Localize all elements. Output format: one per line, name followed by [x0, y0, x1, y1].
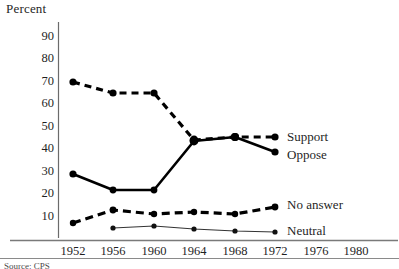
point-support-1956: [109, 89, 116, 96]
series-label-no-answer: No answer: [287, 198, 343, 212]
series-oppose-line: [73, 137, 275, 190]
series-no-answer: [70, 204, 279, 227]
point-oppose-1964: [190, 137, 199, 146]
series-label-oppose: Oppose: [287, 148, 327, 162]
chart-figure: Percent 90 80 70 60 50 40 30 20 10: [0, 0, 399, 269]
point-neutral-1968: [232, 228, 237, 233]
point-oppose-1960: [151, 187, 158, 194]
plot-area: [0, 0, 399, 269]
point-no-answer-1960: [151, 211, 157, 217]
point-oppose-1952: [69, 170, 76, 177]
x-tick-1980: 1980: [335, 245, 377, 258]
x-tick-1956: 1956: [92, 245, 134, 258]
x-tick-1976: 1976: [295, 245, 337, 258]
point-support-1960: [150, 89, 157, 96]
series-neutral: [110, 223, 277, 234]
x-tick-1968: 1968: [214, 245, 256, 258]
point-no-answer-1964: [191, 209, 197, 215]
point-oppose-1956: [110, 187, 117, 194]
point-no-answer-1956: [110, 207, 117, 214]
point-neutral-1964: [191, 226, 196, 231]
series-label-neutral: Neutral: [287, 224, 326, 238]
point-support-1952: [69, 78, 76, 85]
point-neutral-1972: [272, 229, 277, 234]
series-support-line: [73, 82, 275, 140]
source-note: Source: CPS: [4, 261, 50, 269]
point-neutral-1956: [110, 225, 115, 230]
x-tick-1972: 1972: [254, 245, 296, 258]
x-tick-1952: 1952: [52, 245, 94, 258]
series-oppose: [69, 133, 278, 193]
point-no-answer-1972: [272, 204, 279, 211]
series-label-support: Support: [287, 130, 328, 144]
point-oppose-1972: [271, 148, 278, 155]
x-tick-1964: 1964: [173, 245, 215, 258]
point-no-answer-1952: [70, 220, 76, 226]
point-support-1972: [271, 133, 278, 140]
point-neutral-1960: [151, 223, 156, 228]
point-oppose-1968: [231, 133, 239, 141]
series-support: [69, 78, 278, 144]
x-tick-1960: 1960: [133, 245, 175, 258]
point-no-answer-1968: [232, 211, 238, 217]
series-no-answer-line: [73, 207, 275, 223]
